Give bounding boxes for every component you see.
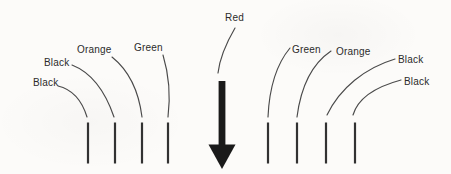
wire-label-right-black-2: Black <box>404 76 429 87</box>
leader-right-black-1 <box>327 59 395 115</box>
leader-left-black-1 <box>58 86 87 117</box>
leader-left-orange <box>112 57 142 117</box>
leader-right-black-2 <box>353 80 401 115</box>
wire-label-right-black-1: Black <box>398 54 423 65</box>
wire-color-diagram: Black Black Orange Green Red Green Orang… <box>0 0 451 174</box>
leader-right-orange <box>297 51 331 117</box>
down-arrow-head <box>209 145 236 170</box>
wire-label-left-black-1: Black <box>33 77 58 88</box>
wire-label-right-orange: Orange <box>336 46 371 57</box>
leader-right-green <box>268 48 290 117</box>
leader-red <box>218 28 235 73</box>
wire-label-left-green: Green <box>134 42 163 53</box>
diagram-linework <box>0 0 451 174</box>
wire-label-red: Red <box>225 12 244 23</box>
leader-left-green <box>163 55 169 117</box>
wire-label-left-orange: Orange <box>77 44 112 55</box>
leader-left-black-2 <box>72 65 114 117</box>
down-arrow-shaft <box>219 81 226 146</box>
leader-lines <box>58 28 401 117</box>
down-arrow <box>209 81 236 169</box>
wire-label-left-black-2: Black <box>44 57 69 68</box>
wire-label-right-green: Green <box>292 44 321 55</box>
